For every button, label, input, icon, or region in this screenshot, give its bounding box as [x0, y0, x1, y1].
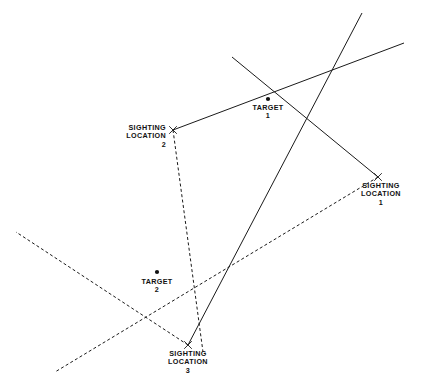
- sighting-diagram: SIGHTING LOCATION 2 SIGHTING LOCATION 1 …: [0, 0, 432, 384]
- bearing-sl3-to-target1: [188, 13, 362, 345]
- sighting-location-3-label: SIGHTING LOCATION 3: [143, 350, 233, 375]
- sighting-location-3-marker: [184, 341, 192, 349]
- target-1-marker: [266, 97, 270, 101]
- markers-group: [155, 97, 382, 349]
- sighting-location-1-label: SIGHTING LOCATION 1: [352, 182, 410, 207]
- sighting-location-2-label: SIGHTING LOCATION 2: [108, 124, 166, 149]
- bearing-sl1-to-target2: [55, 177, 378, 372]
- bearing-sl2-to-target2: [173, 130, 203, 352]
- sighting-location-1-marker: [374, 173, 382, 181]
- bearing-lines-group: [16, 13, 404, 372]
- target-1-label: TARGET 1: [240, 104, 296, 121]
- target-2-marker: [155, 270, 159, 274]
- target-2-label: TARGET 2: [129, 278, 185, 295]
